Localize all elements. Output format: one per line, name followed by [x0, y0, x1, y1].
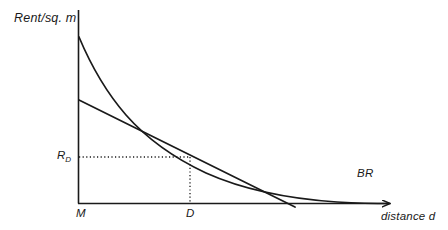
- bid-rent-curve: [79, 37, 390, 204]
- rd-subscript: D: [65, 155, 71, 164]
- origin-tick-label: M: [76, 208, 86, 220]
- y-axis-title: Rent/sq. m: [14, 12, 76, 25]
- plot-canvas: [0, 0, 448, 230]
- bid-rent-curve-label: BR: [357, 168, 374, 180]
- bid-rent-curve-figure: Rent/sq. m RD M D BR distance d: [0, 0, 448, 230]
- linear-rent-line: [79, 100, 295, 207]
- distance-tick-label: D: [186, 208, 194, 220]
- x-axis-title: distance d: [381, 211, 435, 223]
- rd-axis-tick-label: RD: [57, 150, 71, 164]
